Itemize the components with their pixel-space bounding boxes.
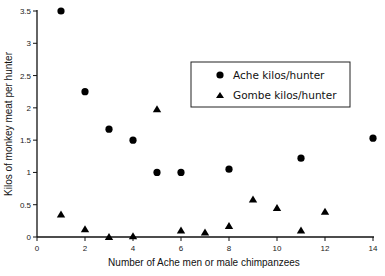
x-tick-label: 4	[131, 244, 136, 253]
circle-marker-icon	[153, 169, 160, 176]
axes: 02468101214 00.511.522.533.5	[20, 7, 378, 253]
legend-circle-icon	[216, 71, 223, 78]
x-axis-title: Number of Ache men or male chimpanzees	[108, 257, 300, 268]
circle-marker-icon	[81, 88, 88, 95]
legend-label-ache: Ache kilos/hunter	[233, 69, 325, 81]
y-tick-label: 1.5	[20, 136, 32, 145]
x-tick-label: 10	[273, 244, 282, 253]
x-tick-label: 14	[369, 244, 378, 253]
circle-marker-icon	[369, 135, 376, 142]
data-points	[57, 7, 377, 240]
y-tick-label: 2.5	[20, 72, 32, 81]
x-tick-label: 6	[179, 244, 184, 253]
triangle-marker-icon	[201, 228, 209, 235]
circle-marker-icon	[129, 137, 136, 144]
triangle-marker-icon	[81, 225, 89, 232]
y-tick-label: 0	[27, 233, 32, 242]
y-ticks: 00.511.522.533.5	[20, 7, 37, 242]
x-ticks: 02468101214	[35, 237, 378, 253]
scatter-chart: 02468101214 00.511.522.533.5 Number of A…	[0, 0, 385, 276]
x-tick-label: 0	[35, 244, 40, 253]
triangle-marker-icon	[153, 105, 161, 112]
circle-marker-icon	[57, 7, 64, 14]
triangle-marker-icon	[129, 232, 137, 239]
y-tick-label: 3.5	[20, 7, 32, 16]
y-tick-label: 0.5	[20, 201, 32, 210]
triangle-marker-icon	[57, 210, 65, 217]
x-tick-label: 12	[321, 244, 330, 253]
triangle-marker-icon	[297, 227, 305, 234]
circle-marker-icon	[177, 169, 184, 176]
x-tick-label: 8	[227, 244, 232, 253]
legend-label-gombe: Gombe kilos/hunter	[233, 89, 337, 101]
y-tick-label: 3	[27, 39, 32, 48]
triangle-marker-icon	[249, 196, 257, 203]
triangle-marker-icon	[273, 204, 281, 211]
circle-marker-icon	[297, 155, 304, 162]
circle-marker-icon	[105, 126, 112, 133]
circle-marker-icon	[225, 166, 232, 173]
y-axis-title: Kilos of monkey meat per hunter	[3, 51, 14, 196]
legend: Ache kilos/hunter Gombe kilos/hunter	[191, 62, 350, 107]
triangle-marker-icon	[177, 227, 185, 234]
y-tick-label: 1	[27, 168, 32, 177]
triangle-marker-icon	[321, 208, 329, 215]
y-tick-label: 2	[27, 104, 32, 113]
x-tick-label: 2	[83, 244, 88, 253]
triangle-marker-icon	[225, 222, 233, 229]
